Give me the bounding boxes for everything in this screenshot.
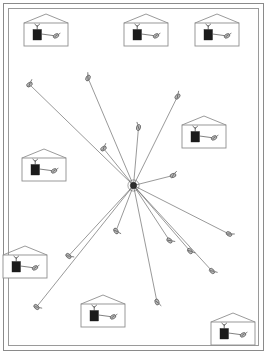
house-left-middle[interactable]: [22, 149, 66, 181]
house-icon: [24, 14, 68, 46]
antenna-node-icon: [173, 91, 182, 100]
house-top-left[interactable]: [24, 14, 68, 46]
antenna-node-icon: [135, 122, 142, 131]
antenna-node-icon: [84, 72, 92, 81]
house-left-lower[interactable]: [3, 246, 47, 278]
antenna-node-icon: [225, 230, 234, 238]
node-n-upper[interactable]: [84, 72, 92, 81]
house-top-center[interactable]: [124, 14, 168, 46]
link-node-n-upper: [88, 78, 134, 186]
house-bottom-mid[interactable]: [81, 295, 125, 327]
link-lines-group: [30, 78, 230, 307]
node-w-mid[interactable]: [99, 143, 108, 152]
antenna-node-icon: [33, 303, 42, 312]
node-se-mid[interactable]: [166, 236, 175, 245]
link-node-sw-mid: [69, 186, 134, 257]
house-icon: [182, 116, 226, 148]
house-icon: [211, 313, 255, 345]
antenna-node-icon: [169, 171, 178, 178]
link-node-e-mid: [134, 176, 174, 186]
antenna-node-icon: [99, 143, 108, 152]
link-node-se-far: [134, 186, 230, 235]
antenna-node-icon: [25, 79, 34, 88]
node-n-mid[interactable]: [135, 122, 142, 131]
link-node-se-low: [134, 186, 213, 272]
link-node-s-right: [134, 186, 191, 252]
node-sw-far[interactable]: [33, 303, 42, 312]
house-icon: [124, 14, 168, 46]
house-top-right[interactable]: [195, 14, 239, 46]
link-node-sw-far: [37, 186, 134, 308]
house-icon: [81, 295, 125, 327]
link-node-s-mid: [116, 186, 134, 232]
network-topology-diagram: [0, 0, 267, 354]
link-node-w-mid: [104, 149, 134, 186]
node-se-far[interactable]: [225, 230, 234, 238]
client-nodes-group: [25, 72, 234, 312]
hub-core-marker[interactable]: [130, 182, 136, 188]
central-hub[interactable]: [128, 180, 139, 191]
house-icon: [195, 14, 239, 46]
node-e-mid[interactable]: [169, 171, 178, 178]
node-s-low[interactable]: [154, 298, 161, 307]
topology-canvas: [0, 0, 267, 354]
house-bottom-right[interactable]: [211, 313, 255, 345]
house-icon: [3, 246, 47, 278]
node-nw-far[interactable]: [25, 79, 34, 88]
house-icon: [22, 149, 66, 181]
antenna-node-icon: [65, 252, 74, 261]
node-ne-upper[interactable]: [173, 91, 182, 100]
antenna-node-icon: [166, 236, 175, 245]
node-sw-mid[interactable]: [65, 252, 74, 261]
link-node-ne-upper: [134, 97, 178, 186]
house-right-upper[interactable]: [182, 116, 226, 148]
antenna-node-icon: [154, 298, 161, 307]
